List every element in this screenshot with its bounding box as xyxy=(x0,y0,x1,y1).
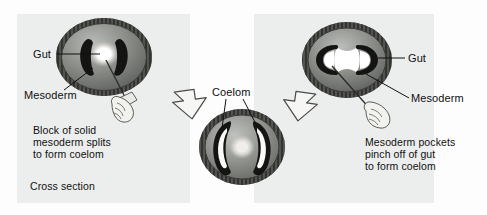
mesoderm-label-right: Mesoderm xyxy=(411,92,464,105)
gut-label-left: Gut xyxy=(33,48,51,61)
right-caption-line-1: Mesoderm pockets xyxy=(365,136,455,149)
cross-section-footer: Cross section xyxy=(30,180,95,193)
figure-canvas: Gut Mesoderm Block of solid mesoderm spl… xyxy=(0,0,487,215)
right-caption-line-3: to form coelom xyxy=(365,160,436,173)
left-caption-line-1: Block of solid xyxy=(33,124,96,137)
left-caption-line-3: to form coelom xyxy=(33,148,104,161)
arrow-left-to-middle xyxy=(171,88,209,121)
left-embryo xyxy=(56,18,152,96)
mesoderm-label-left: Mesoderm xyxy=(24,89,77,102)
middle-embryo xyxy=(199,109,285,185)
gut-lumen-right xyxy=(334,48,360,72)
gut-label-right: Gut xyxy=(408,52,426,65)
right-caption-line-2: pinch off of gut xyxy=(365,148,435,161)
right-embryo xyxy=(302,22,392,98)
left-caption-line-2: mesoderm splits xyxy=(33,136,111,149)
arrow-right-to-middle xyxy=(281,90,319,123)
coelom-label: Coelom xyxy=(212,86,251,99)
